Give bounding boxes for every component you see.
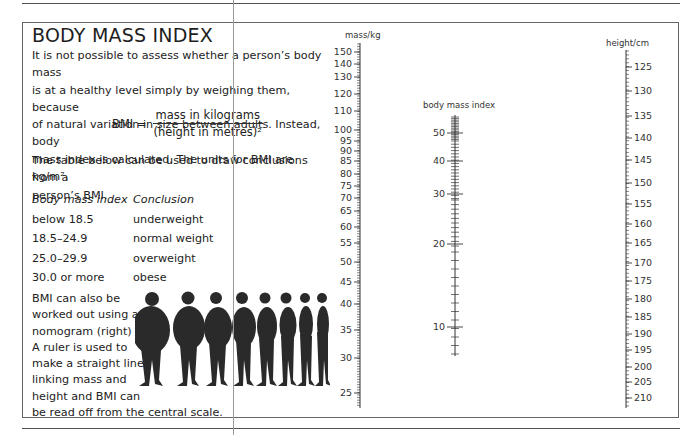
mass-tick-label: 60	[340, 222, 352, 232]
mass-tick-label: 25	[340, 388, 352, 398]
height-tick-label: 165	[634, 238, 652, 248]
cell-bmi: 25.0–29.9	[32, 252, 133, 265]
mass-tick-label: 130	[334, 72, 352, 82]
silhouette-icon	[256, 293, 277, 387]
bmi-tick-label: 30	[433, 189, 445, 199]
table-row: below 18.5 underweight	[32, 210, 213, 230]
table-row: 30.0 or more obese	[32, 268, 213, 288]
formula-denominator: (height in metres)²	[154, 124, 262, 139]
cell-conclusion: overweight	[133, 252, 196, 265]
height-tick-label: 180	[634, 294, 652, 304]
bmi-tick-label: 50	[433, 128, 445, 138]
cell-conclusion: normal weight	[133, 232, 213, 245]
bmi-tick-label: 20	[433, 239, 445, 249]
silhouette-icon	[278, 293, 297, 387]
height-tick-label: 150	[634, 178, 652, 188]
height-tick-label: 135	[634, 111, 652, 121]
mass-tick-label: 150	[334, 47, 352, 57]
mass-tick-label: 35	[340, 325, 352, 335]
table-row: 18.5–24.9 normal weight	[32, 229, 213, 249]
height-tick-label: 145	[634, 155, 652, 165]
silhouette-icon	[315, 293, 330, 386]
mass-tick-label: 40	[340, 299, 352, 309]
height-tick-label: 185	[634, 312, 652, 322]
top-border-line	[22, 3, 680, 4]
page-fold-line	[233, 0, 234, 435]
page-title: BODY MASS INDEX	[32, 24, 213, 46]
height-tick-label: 195	[634, 345, 652, 355]
mass-tick-label: 55	[340, 238, 352, 248]
header-bmi: Body mass index	[32, 193, 133, 206]
nomogram-line: be read off from the central scale.	[32, 405, 332, 421]
cell-bmi: 30.0 or more	[32, 271, 133, 284]
height-tick-label: 130	[634, 86, 652, 96]
formula-lhs: BMI =	[112, 117, 147, 131]
cell-bmi: 18.5–24.9	[32, 232, 133, 245]
table-intro-line: The table below can be used to draw conc…	[32, 152, 332, 187]
bmi-axis-label: body mass index	[423, 100, 495, 110]
cell-conclusion: obese	[133, 271, 167, 284]
silhouette-icon	[204, 292, 232, 386]
formula-fraction: mass in kilograms (height in metres)²	[153, 108, 263, 139]
mass-tick-label: 50	[340, 257, 352, 267]
bottom-border-line	[22, 428, 680, 429]
cell-conclusion: underweight	[133, 213, 204, 226]
silhouette-icon	[135, 292, 170, 386]
mass-tick-label: 140	[334, 59, 352, 69]
silhouette-icon	[232, 292, 256, 386]
mass-tick-label: 120	[334, 89, 352, 99]
mass-tick-label: 100	[334, 125, 352, 135]
mass-tick-label: 110	[334, 106, 352, 116]
cell-bmi: below 18.5	[32, 213, 133, 226]
mass-tick-label: 75	[340, 181, 352, 191]
bmi-tick-label: 40	[433, 156, 445, 166]
mass-axis-label: mass/kg	[345, 30, 381, 40]
height-tick-label: 125	[634, 62, 652, 72]
bmi-tick-label: 10	[433, 322, 445, 332]
bmi-table: Body mass index Conclusion below 18.5 un…	[32, 190, 213, 288]
silhouette-icon	[297, 293, 315, 386]
mass-tick-label: 65	[340, 206, 352, 216]
mass-tick-label: 80	[340, 169, 352, 179]
mass-tick-label: 85	[340, 156, 352, 166]
formula-numerator: mass in kilograms	[153, 108, 263, 124]
height-tick-label: 175	[634, 276, 652, 286]
height-tick-label: 140	[634, 133, 652, 143]
table-header-row: Body mass index Conclusion	[32, 190, 213, 210]
height-tick-label: 160	[634, 219, 652, 229]
silhouette-icon	[173, 292, 205, 387]
height-tick-label: 170	[634, 258, 652, 268]
mass-tick-label: 30	[340, 353, 352, 363]
height-axis-label: height/cm	[606, 38, 649, 48]
height-tick-label: 155	[634, 199, 652, 209]
height-tick-label: 205	[634, 377, 652, 387]
height-tick-label: 200	[634, 362, 652, 372]
height-tick-label: 210	[634, 393, 652, 403]
header-conclusion: Conclusion	[133, 193, 194, 206]
height-tick-label: 190	[634, 329, 652, 339]
intro-line: It is not possible to assess whether a p…	[32, 47, 332, 82]
mass-tick-label: 70	[340, 193, 352, 203]
mass-tick-label: 45	[340, 277, 352, 287]
bmi-formula: BMI = mass in kilograms (height in metre…	[112, 108, 263, 139]
table-row: 25.0–29.9 overweight	[32, 249, 213, 269]
